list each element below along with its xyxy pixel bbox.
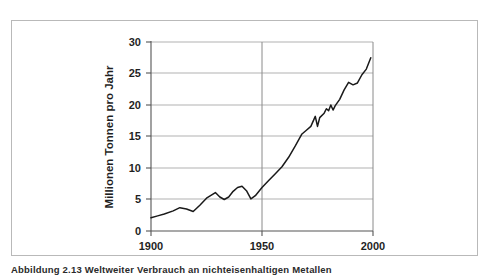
ytick-label-30: 30 — [129, 36, 141, 48]
data-series-line — [151, 58, 371, 218]
y-axis-ticks — [146, 42, 151, 231]
ytick-label-0: 0 — [135, 225, 141, 237]
y-axis-title: Millionen Tonnen pro Jahr — [103, 65, 115, 208]
ytick-label-20: 20 — [129, 99, 141, 111]
xtick-label-2000: 2000 — [361, 240, 385, 252]
xtick-label-1900: 1900 — [139, 240, 163, 252]
line-chart: 30 25 20 15 10 5 0 1900 1950 2000 Millio… — [12, 21, 479, 257]
xtick-label-1950: 1950 — [250, 240, 274, 252]
ytick-label-15: 15 — [129, 130, 141, 142]
x-tick-labels: 1900 1950 2000 — [139, 240, 385, 252]
grid-lines — [151, 42, 373, 231]
ytick-label-5: 5 — [135, 193, 141, 205]
x-axis-ticks — [151, 231, 373, 236]
y-tick-labels: 30 25 20 15 10 5 0 — [129, 36, 141, 237]
figure-frame: 30 25 20 15 10 5 0 1900 1950 2000 Millio… — [11, 20, 478, 256]
chart-plot-area: 30 25 20 15 10 5 0 1900 1950 2000 Millio… — [12, 21, 479, 257]
ytick-label-10: 10 — [129, 162, 141, 174]
figure-caption: Abbildung 2.13 Weltweiter Verbrauch an n… — [11, 264, 481, 275]
ytick-label-25: 25 — [129, 67, 141, 79]
